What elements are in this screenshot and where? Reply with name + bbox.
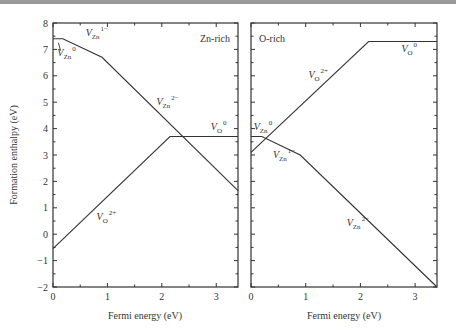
series-line-v-o xyxy=(251,42,437,153)
x-axis-label-right: Fermi energy (eV) xyxy=(307,310,381,322)
x-tick-label: 3 xyxy=(214,291,219,302)
y-tick-label: 1 xyxy=(43,202,48,213)
y-tick-label: 4 xyxy=(43,123,48,134)
curve-annotation: VO0 xyxy=(211,119,227,135)
y-tick-label: 6 xyxy=(43,70,48,81)
curve-annotation: VO2+ xyxy=(97,209,117,225)
y-tick-label: 7 xyxy=(43,44,48,55)
series-line-v-o xyxy=(53,137,238,249)
x-tick-label: 2 xyxy=(358,291,363,302)
y-axis-label: Formation enthalpy (eV) xyxy=(8,105,20,204)
y-tick-label: 5 xyxy=(43,97,48,108)
x-tick-label: 0 xyxy=(249,291,254,302)
plot-frame xyxy=(53,23,238,287)
y-tick-label: 0 xyxy=(43,229,48,240)
series-line-v-zn xyxy=(53,39,238,191)
x-axis-label-left: Fermi energy (eV) xyxy=(108,310,182,322)
y-tick-label: 2 xyxy=(43,176,48,187)
curve-annotation: VZn1− xyxy=(86,25,108,41)
panel-label: O-rich xyxy=(259,33,285,44)
x-tick-label: 2 xyxy=(159,291,164,302)
y-tick-label: −1 xyxy=(37,255,48,266)
y-tick-label: 3 xyxy=(43,150,48,161)
curve-annotation: VZn2− xyxy=(347,215,369,231)
curve-annotation: VO2+ xyxy=(308,67,328,83)
y-tick-label: 8 xyxy=(43,18,48,29)
x-tick-label: 0 xyxy=(51,291,56,302)
curve-annotation: VZn0 xyxy=(57,45,76,61)
x-tick-label: 1 xyxy=(105,291,110,302)
curve-annotation: VO0 xyxy=(401,41,417,57)
x-tick-label: 1 xyxy=(303,291,308,302)
chart-canvas: 0123−2−1012345678Zn-richVZn0VZn1−VZn2−VO… xyxy=(0,0,456,334)
y-tick-label: −2 xyxy=(37,282,48,293)
panel-zn-rich: 0123−2−1012345678Zn-richVZn0VZn1−VZn2−VO… xyxy=(37,18,238,303)
panel-o-rich: 0123O-richVZn0VZn1−VZn2−VO2+VO0 xyxy=(249,23,438,302)
curve-annotation: VZn2− xyxy=(156,94,178,110)
curve-annotation: VZn1− xyxy=(273,147,295,163)
curve-annotation: VZn0 xyxy=(254,119,273,135)
x-tick-label: 3 xyxy=(413,291,418,302)
panel-label: Zn-rich xyxy=(200,33,230,44)
